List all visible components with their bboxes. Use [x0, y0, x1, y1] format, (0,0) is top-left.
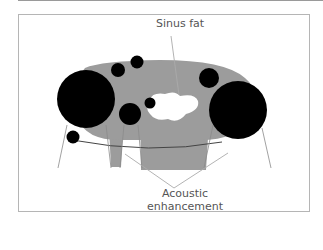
- sinus-fat-label: Sinus fat: [145, 17, 215, 30]
- acoustic-enhancement-label: Acoustic enhancement: [125, 187, 245, 213]
- acoustic-label-line1: Acoustic: [125, 187, 245, 200]
- acoustic-label-line2: enhancement: [125, 200, 245, 213]
